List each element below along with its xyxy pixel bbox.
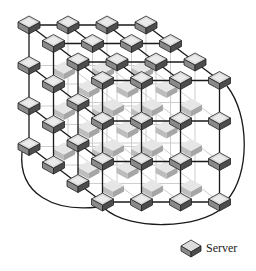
torus-network-diagram <box>0 0 256 271</box>
server-icon <box>180 238 202 258</box>
legend-label: Server <box>206 241 237 256</box>
front-bottom-wrap <box>104 208 222 225</box>
legend: Server <box>180 238 237 258</box>
right-side-wrap <box>227 86 244 200</box>
surface-servers <box>18 16 231 211</box>
